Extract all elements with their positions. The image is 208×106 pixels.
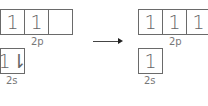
after-2s-box: 1 [138,48,163,74]
after-configuration: 1 1 1 2p 1 2s [138,0,208,106]
before-2s-label: 2s [6,75,18,86]
before-2p-orbitals: 1 1 [0,9,73,35]
after-2p-label: 2p [169,36,182,47]
before-2p-label: 2p [31,36,44,47]
before-2s-box: 1⇂ [0,48,25,74]
after-2s-label: 2s [144,75,156,86]
before-2p-box-1: 1 [0,9,25,35]
after-2p-box-2: 1 [162,9,187,35]
after-2p-box-3: 1 [186,9,208,35]
before-2p-box-2: 1 [24,9,49,35]
after-2s-orbital: 1 [138,48,163,74]
before-2p-box-3 [48,9,73,35]
before-configuration: 1 1 2p 1⇂ 2s [0,0,90,106]
before-2s-orbital: 1⇂ [0,48,25,74]
after-2p-box-1: 1 [138,9,163,35]
right-arrow-icon [93,41,119,42]
after-2p-orbitals: 1 1 1 [138,9,208,35]
